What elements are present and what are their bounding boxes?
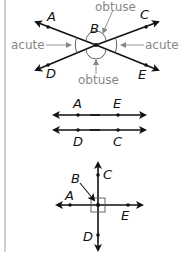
point-c2	[116, 128, 120, 132]
label-c2: C	[113, 134, 123, 149]
point-a2	[76, 113, 80, 117]
label-e3: E	[121, 208, 130, 223]
label-a: A	[46, 9, 56, 24]
point-a3	[68, 203, 72, 207]
point-d3	[96, 233, 100, 237]
label-e2: E	[113, 96, 122, 111]
geometry-figures: A B C D E obtuse obtuse acute acute A E …	[0, 0, 189, 259]
point-b3	[96, 203, 100, 207]
figure-intersecting-lines: A B C D E obtuse obtuse acute acute	[11, 0, 179, 87]
point-e2	[116, 113, 120, 117]
b-pointer-arrow	[80, 183, 94, 200]
label-d2: D	[73, 134, 83, 149]
label-a2: A	[72, 96, 82, 111]
point-e3	[126, 203, 130, 207]
point-c3	[96, 173, 100, 177]
label-d3: D	[83, 229, 93, 244]
label-c3: C	[103, 167, 113, 182]
point-d2	[76, 128, 80, 132]
figure-perpendicular-lines: B C A E D	[57, 163, 142, 250]
label-obtuse-top: obtuse	[95, 0, 136, 14]
label-acute-right: acute	[145, 38, 179, 52]
label-acute-left: acute	[11, 38, 45, 52]
label-b: B	[90, 21, 99, 36]
ray-ba	[36, 22, 96, 45]
point-c	[144, 25, 148, 29]
label-obtuse-bottom: obtuse	[78, 73, 119, 87]
label-c: C	[140, 7, 150, 22]
label-d: D	[46, 66, 56, 81]
point-b	[94, 43, 98, 47]
label-b3: B	[71, 171, 80, 186]
obtuse-arc-bottom	[86, 49, 106, 59]
acute-arc-right	[115, 37, 117, 53]
ray-bd	[36, 45, 96, 70]
point-a	[46, 25, 50, 29]
acute-arc-left	[75, 37, 77, 53]
label-e: E	[138, 67, 147, 82]
label-a3: A	[64, 188, 74, 203]
figure-parallel-lines: A E D C	[54, 96, 145, 149]
